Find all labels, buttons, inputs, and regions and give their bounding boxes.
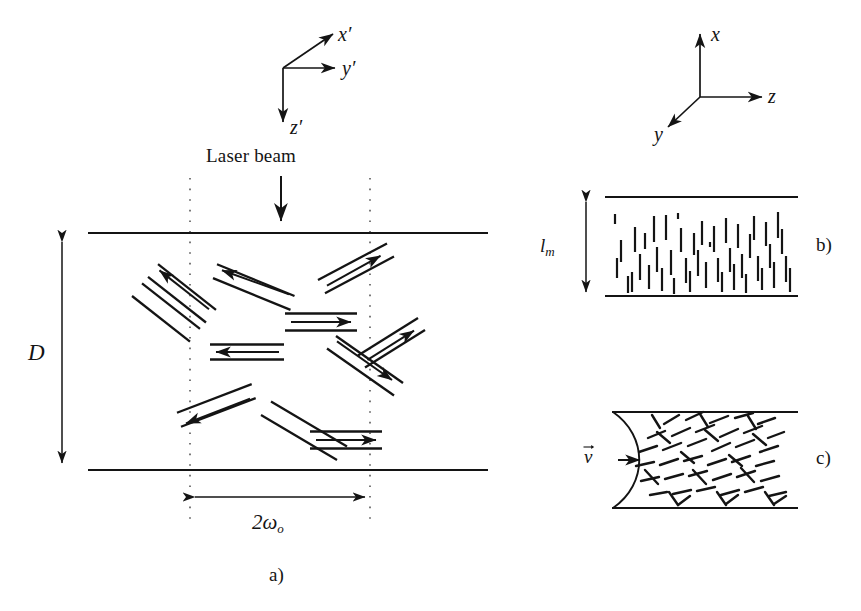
y-prime-axis-label: y′ — [342, 58, 355, 78]
laser-beam-label: Laser beam — [206, 146, 296, 165]
vector-arrow-accent-icon — [583, 443, 595, 450]
panel-c-group — [612, 412, 798, 508]
z-prime-axis-label: z′ — [290, 117, 302, 137]
domain-element — [213, 264, 295, 310]
panel-c-rods — [636, 412, 786, 505]
domain-element — [177, 384, 256, 427]
figure-canvas — [0, 0, 861, 611]
x-prime-axis-arrow — [283, 34, 333, 68]
panel-c-label: c) — [816, 448, 831, 467]
domain-element — [210, 345, 284, 360]
panel-b-rods — [615, 212, 790, 294]
panel-a-label: a) — [269, 565, 284, 584]
waist-label-sub: o — [277, 521, 284, 536]
domain-element — [318, 243, 394, 293]
panel-b-label: b) — [816, 235, 832, 254]
waist-dimension-label: 2ωo — [252, 512, 284, 535]
lm-label-sub: m — [545, 244, 554, 259]
velocity-label: v — [584, 447, 592, 466]
primed-axes-group — [283, 34, 335, 122]
panel-b-group — [586, 197, 798, 296]
figure-root: x′ y′ z′ x z y Laser beam D 2ωo a) lm b)… — [0, 0, 861, 611]
panel-a-group — [62, 176, 488, 523]
x-axis-label: x — [711, 24, 720, 44]
domain-element — [358, 318, 425, 367]
x-prime-axis-label: x′ — [338, 24, 351, 44]
z-axis-label: z — [768, 86, 776, 106]
lab-axes-group — [668, 34, 762, 127]
y-axis-label: y — [654, 124, 663, 144]
gap-dimension-label: D — [28, 341, 45, 364]
velocity-vector-symbol: v — [584, 447, 592, 466]
y-axis-arrow — [668, 97, 700, 127]
waist-label-main: 2ω — [252, 510, 277, 534]
domain-elements — [132, 243, 425, 460]
slab-thickness-label: lm — [540, 236, 555, 258]
domain-element — [285, 314, 357, 331]
